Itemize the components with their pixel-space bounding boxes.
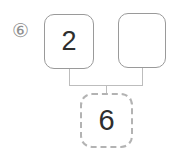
exercise-number-label: ⑥ bbox=[12, 21, 29, 40]
connector-line-left-vertical bbox=[69, 69, 70, 86]
part-box-left: 2 bbox=[44, 14, 94, 69]
part-box-right-answer[interactable] bbox=[118, 13, 166, 68]
whole-box-value: 6 bbox=[98, 104, 114, 137]
number-bond-diagram: ⑥ 2 6 bbox=[0, 0, 177, 154]
connector-line-right-vertical bbox=[142, 68, 143, 86]
whole-box: 6 bbox=[80, 93, 133, 148]
part-box-left-value: 2 bbox=[61, 26, 76, 57]
